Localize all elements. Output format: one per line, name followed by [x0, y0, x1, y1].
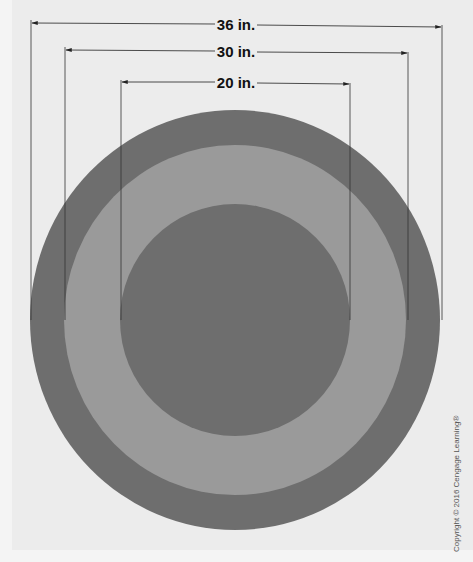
label-30-in: 30 in.	[217, 43, 255, 60]
copyright-notice: Copyright © 2016 Cengage Learning®	[452, 416, 461, 552]
label-36-in: 36 in.	[217, 16, 255, 33]
inner-circle-20in	[120, 204, 350, 436]
concentric-circles-diagram: 36 in. 30 in. 20 in.	[0, 0, 473, 562]
label-20-in: 20 in.	[217, 74, 255, 91]
